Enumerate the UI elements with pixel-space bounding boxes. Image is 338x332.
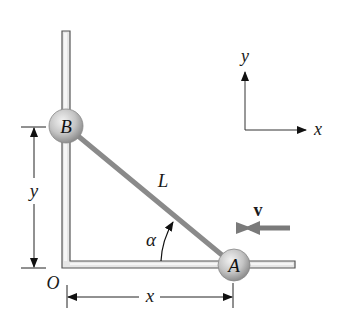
velocity-vector: v [244,200,290,235]
ball-a-label: A [226,255,240,276]
rod-mechanism-diagram: B A L α v y O x y x [0,0,338,332]
dim-y-label: y [28,180,39,201]
axis-x-label: x [313,119,322,139]
dim-x-label: x [145,285,155,306]
angle-label: α [146,229,157,250]
velocity-label: v [254,200,263,220]
collar-a: A [218,249,250,281]
coordinate-axes: y x [239,46,322,139]
vertical-rail-highlight [64,33,67,261]
angle-arc [161,222,173,261]
rod-label: L [157,170,169,191]
angle-alpha: α [146,222,173,261]
horizontal-rail-highlight [70,263,293,265]
axis-y-label: y [239,46,249,66]
velocity-arrowhead [244,221,260,235]
origin-label: O [47,273,60,293]
dimension-x: x [67,283,233,308]
dimension-y: y [21,127,46,268]
collar-b: B [49,109,83,143]
ball-b-label: B [60,116,72,137]
